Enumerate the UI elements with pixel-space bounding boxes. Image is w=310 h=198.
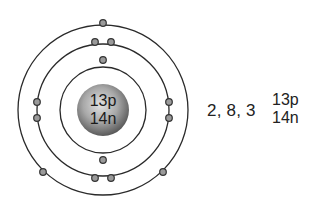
electron — [100, 57, 107, 64]
electron — [100, 20, 107, 27]
nucleus-protons-label: 13p — [90, 92, 117, 109]
electron — [166, 115, 173, 122]
electron — [108, 175, 115, 182]
electron — [160, 169, 167, 176]
electron — [92, 175, 99, 182]
nucleus: 13p 14n — [77, 84, 129, 136]
electron — [40, 169, 47, 176]
electron — [34, 115, 41, 122]
electron — [108, 39, 115, 46]
nucleus-neutrons-label: 14n — [90, 110, 117, 127]
atom-diagram: 13p 14n — [0, 0, 310, 198]
electron — [100, 157, 107, 164]
electron — [34, 99, 41, 106]
side-protons-label: 13p — [272, 92, 299, 108]
electron-configuration: 2, 8, 3 — [207, 101, 256, 121]
electron — [92, 39, 99, 46]
electron — [166, 99, 173, 106]
side-neutrons-label: 14n — [272, 110, 299, 126]
